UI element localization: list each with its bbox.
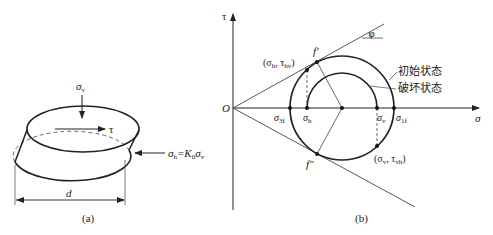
specimen-bottom-back-dashed <box>13 131 129 162</box>
tick-sigmav: σv <box>377 112 386 125</box>
f-prime-label: f′ <box>313 45 319 57</box>
point-sigmah <box>305 106 309 110</box>
diagram-canvas: σv τ σh=K0σv d (a) τ σ O φ <box>0 0 493 235</box>
horizontal-stress-label: σh=K0σv <box>168 147 205 161</box>
specimen-right-edge <box>129 130 139 150</box>
legend-initial-state: 初始状态 <box>398 64 442 78</box>
origin-label: O <box>222 102 230 114</box>
point-h-label: (σh, τhv) <box>263 57 295 70</box>
specimen-bottom-front <box>15 150 131 181</box>
leader-failure <box>370 86 396 89</box>
f-double-prime-label: f″ <box>306 158 314 170</box>
point-v-label: (σv, τvh) <box>374 153 406 166</box>
tick-sigma3f: σ3f <box>274 112 285 125</box>
tau-axis-label: τ <box>222 10 227 22</box>
leader-initial <box>389 72 397 80</box>
radius-f-prime <box>317 62 342 108</box>
figure-a: σv τ σh=K0σv d (a) <box>13 80 204 225</box>
shear-label: τ <box>109 123 114 135</box>
point-sigma1f <box>392 106 396 110</box>
legend-failure-state: 破坏状态 <box>398 81 442 95</box>
figure-b: τ σ O φ f′ f″ (σh, τhv) (σv, τvh) <box>222 10 481 225</box>
point-f-double-prime <box>315 152 319 156</box>
tick-sigmah: σh <box>303 112 312 125</box>
caption-b: (b) <box>355 212 368 225</box>
point-sigma-h-tau-hv <box>305 68 309 72</box>
point-sigmav <box>375 106 379 110</box>
specimen-left-edge <box>15 130 27 162</box>
point-sigma3f <box>288 106 292 110</box>
tick-sigma1f: σ1f <box>396 112 407 125</box>
dim-arrow-left <box>16 197 24 203</box>
point-f-prime <box>315 60 319 64</box>
diameter-label: d <box>66 187 72 199</box>
sigma-axis-label: σ <box>475 112 481 124</box>
mohr-circle-initial <box>307 73 377 108</box>
point-center <box>340 106 344 110</box>
caption-a: (a) <box>82 212 95 225</box>
radius-f-double-prime <box>317 108 342 154</box>
point-sigma-v-tau-vh <box>375 144 379 148</box>
phi-label: φ <box>369 28 375 39</box>
vertical-stress-label: σv <box>76 80 85 94</box>
